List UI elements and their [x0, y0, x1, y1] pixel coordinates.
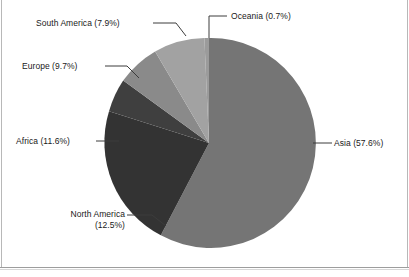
figure-border-bottom-secondary	[0, 269, 409, 270]
leader-line-oceania	[209, 16, 227, 38]
slice-label-asia: Asia (57.6%)	[334, 138, 383, 149]
slice-label-north-america: North America (12.5%)	[29, 209, 125, 231]
slice-label-oceania: Oceania (0.7%)	[231, 11, 291, 22]
leader-line-south-america	[153, 23, 186, 36]
slice-label-north-america-line2: (12.5%)	[29, 220, 125, 231]
slice-label-africa: Africa (11.6%)	[16, 136, 70, 147]
slice-label-north-america-line1: North America	[29, 209, 125, 220]
pie-chart-figure: South America (7.9%) Oceania (0.7%) Euro…	[0, 0, 409, 277]
figure-border-right	[407, 0, 408, 268]
pie-slices	[104, 38, 315, 248]
figure-border-left	[1, 0, 2, 268]
slice-label-europe: Europe (9.7%)	[22, 61, 77, 72]
slice-label-south-america: South America (7.9%)	[36, 18, 120, 29]
figure-border-bottom	[0, 267, 409, 268]
